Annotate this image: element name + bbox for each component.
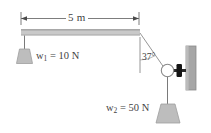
span-dimension-label: 5 m bbox=[66, 12, 88, 23]
left-weight-value: = 10 N bbox=[50, 50, 79, 61]
bottom-weight-block bbox=[156, 104, 180, 123]
bottom-weight-value: = 50 N bbox=[120, 102, 149, 113]
bottom-weight-label: w2 = 50 N bbox=[106, 103, 149, 114]
ring-pulley bbox=[161, 64, 173, 76]
rod-knob bbox=[177, 64, 183, 77]
left-weight-symbol: w bbox=[36, 50, 44, 61]
wall-plate-highlight bbox=[186, 46, 189, 90]
left-weight-shape bbox=[17, 49, 33, 64]
physics-diagram: 5 m w1 = 10 N 37° w2 = 50 N bbox=[0, 0, 211, 133]
left-weight-label: w1 = 10 N bbox=[36, 51, 79, 62]
horizontal-beam bbox=[21, 29, 140, 36]
bottom-weight-shape bbox=[156, 104, 180, 123]
dimension-arrow-right-icon bbox=[133, 16, 139, 21]
angle-label: 37° bbox=[142, 53, 155, 63]
dimension-arrow-left-icon bbox=[21, 16, 27, 21]
bottom-weight-subscript: 2 bbox=[114, 106, 118, 115]
beam-bottom-edge bbox=[21, 34, 140, 35]
left-weight-subscript: 1 bbox=[44, 54, 48, 63]
beam-top-edge bbox=[21, 29, 140, 31]
left-weight-block bbox=[17, 49, 33, 64]
bottom-weight-symbol: w bbox=[106, 102, 114, 113]
wall-plate bbox=[186, 46, 196, 90]
